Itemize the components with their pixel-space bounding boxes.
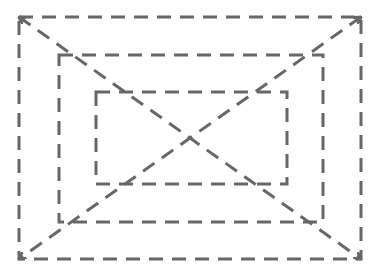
nested-rectangles-diagram: [0, 0, 375, 271]
